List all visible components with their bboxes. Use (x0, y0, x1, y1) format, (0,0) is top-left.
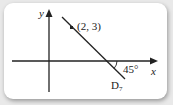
angle-arc (114, 61, 117, 69)
y-axis-label: y (39, 8, 44, 19)
x-axis-label: x (151, 66, 156, 77)
line-label: D7 (111, 80, 122, 93)
y-axis-arrow-icon (46, 9, 53, 17)
line-name: D (111, 79, 119, 91)
point-marker (70, 26, 73, 29)
coordinate-plane (0, 0, 173, 105)
line-subscript: 7 (119, 85, 123, 93)
point-label: (2, 3) (77, 21, 101, 32)
x-axis-arrow-icon (150, 58, 158, 65)
angle-label: 45° (123, 64, 138, 75)
